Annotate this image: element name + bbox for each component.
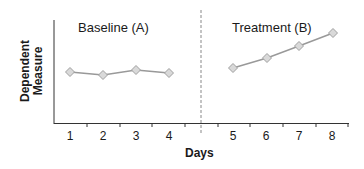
treatment-phase-label: Treatment (B) bbox=[232, 20, 312, 35]
marker-day-6 bbox=[263, 54, 272, 63]
tick-label-5: 5 bbox=[223, 129, 243, 143]
x-axis-title: Days bbox=[185, 146, 214, 160]
marker-day-3 bbox=[132, 66, 141, 75]
tick-label-6: 6 bbox=[256, 129, 276, 143]
marker-day-1 bbox=[66, 68, 75, 77]
tick-label-2: 2 bbox=[93, 129, 113, 143]
single-case-design-chart: Baseline (A) Treatment (B) 1 2 3 4 5 6 7… bbox=[0, 0, 364, 169]
marker-day-7 bbox=[295, 42, 304, 51]
tick-label-4: 4 bbox=[159, 129, 179, 143]
baseline-phase-label: Baseline (A) bbox=[78, 20, 149, 35]
treatment-line bbox=[233, 33, 333, 68]
marker-day-2 bbox=[99, 71, 108, 80]
tick-label-3: 3 bbox=[126, 129, 146, 143]
marker-day-8 bbox=[329, 29, 338, 38]
baseline-line bbox=[70, 70, 169, 75]
tick-label-1: 1 bbox=[60, 129, 80, 143]
tick-label-7: 7 bbox=[289, 129, 309, 143]
tick-label-8: 8 bbox=[322, 129, 342, 143]
marker-day-4 bbox=[165, 69, 174, 78]
y-axis-title-line2: Measure bbox=[32, 31, 45, 111]
marker-day-5 bbox=[229, 64, 238, 73]
y-axis-title: Dependent Measure bbox=[19, 31, 45, 111]
